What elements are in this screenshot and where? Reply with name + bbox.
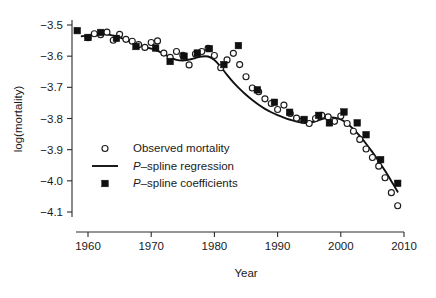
observed-point bbox=[275, 106, 281, 112]
x-tick-label: 2010 bbox=[391, 240, 417, 252]
coefficient-point bbox=[301, 116, 308, 123]
coefficient-point bbox=[377, 156, 384, 163]
observed-point bbox=[243, 74, 249, 80]
x-tick-label: 1990 bbox=[265, 240, 291, 252]
coefficient-point bbox=[181, 53, 188, 60]
observed-point bbox=[142, 44, 148, 50]
coefficient-point bbox=[354, 120, 361, 127]
legend-marker-observed bbox=[102, 146, 108, 152]
observed-point bbox=[350, 128, 356, 134]
coefficient-point bbox=[394, 180, 401, 187]
coefficient-point bbox=[133, 43, 140, 50]
coefficient-point bbox=[85, 34, 92, 41]
observed-point bbox=[395, 203, 401, 209]
x-tick-label: 1970 bbox=[138, 240, 164, 252]
coefficient-point bbox=[97, 29, 104, 36]
coefficient-point bbox=[221, 61, 228, 68]
coefficient-point bbox=[315, 112, 322, 119]
observed-point bbox=[91, 31, 97, 37]
y-tick-label: −4.0 bbox=[40, 175, 63, 187]
x-axis-title: Year bbox=[234, 267, 257, 279]
coefficient-point bbox=[235, 42, 242, 49]
observed-point bbox=[173, 48, 179, 54]
y-tick-label: −3.5 bbox=[40, 19, 63, 31]
observed-point bbox=[237, 62, 243, 68]
y-tick-label: −3.8 bbox=[40, 113, 63, 125]
observed-point bbox=[104, 29, 110, 35]
y-tick-label: −3.7 bbox=[40, 81, 63, 93]
observed-point bbox=[230, 50, 236, 56]
coefficient-point bbox=[74, 27, 81, 34]
coefficient-point bbox=[254, 87, 261, 94]
coefficient-point bbox=[271, 99, 278, 106]
observed-point bbox=[357, 136, 363, 142]
x-tick-label: 2000 bbox=[328, 240, 354, 252]
observed-point bbox=[281, 102, 287, 108]
legend-marker-coefficients bbox=[102, 180, 109, 187]
y-axis-title: log(mortality) bbox=[12, 86, 24, 153]
coefficient-point bbox=[167, 58, 174, 65]
observed-point bbox=[211, 53, 217, 59]
mortality-trend-chart: −3.5−3.6−3.7−3.8−3.9−4.0−4.1 19601970198… bbox=[0, 0, 436, 298]
coefficient-point bbox=[206, 45, 213, 52]
observed-point bbox=[186, 62, 192, 68]
observed-point bbox=[294, 115, 300, 121]
observed-point bbox=[325, 114, 331, 120]
legend-label: P–spline coefficients bbox=[133, 177, 238, 189]
observed-point bbox=[123, 36, 129, 42]
chart-canvas: −3.5−3.6−3.7−3.8−3.9−4.0−4.1 19601970198… bbox=[0, 0, 436, 298]
observed-point bbox=[388, 190, 394, 196]
observed-point bbox=[369, 154, 375, 160]
coefficient-point bbox=[326, 120, 333, 127]
coefficient-point bbox=[341, 109, 348, 116]
observed-point bbox=[155, 38, 161, 44]
x-tick-label: 1980 bbox=[202, 240, 228, 252]
observed-point bbox=[376, 163, 382, 169]
observed-point bbox=[382, 175, 388, 181]
legend-label: Observed mortality bbox=[133, 142, 230, 154]
y-tick-label: −3.9 bbox=[40, 144, 63, 156]
legend-label: P–spline regression bbox=[133, 160, 234, 172]
observed-point bbox=[161, 50, 167, 56]
x-tick-label: 1960 bbox=[75, 240, 101, 252]
y-tick-label: −4.1 bbox=[40, 206, 63, 218]
coefficient-point bbox=[152, 45, 159, 52]
observed-point bbox=[363, 146, 369, 152]
coefficient-point bbox=[113, 35, 120, 42]
observed-point bbox=[344, 120, 350, 126]
coefficient-point bbox=[286, 109, 293, 116]
coefficient-point bbox=[194, 50, 201, 57]
observed-point bbox=[262, 96, 268, 102]
y-tick-label: −3.6 bbox=[40, 50, 63, 62]
coefficient-point bbox=[363, 131, 370, 138]
